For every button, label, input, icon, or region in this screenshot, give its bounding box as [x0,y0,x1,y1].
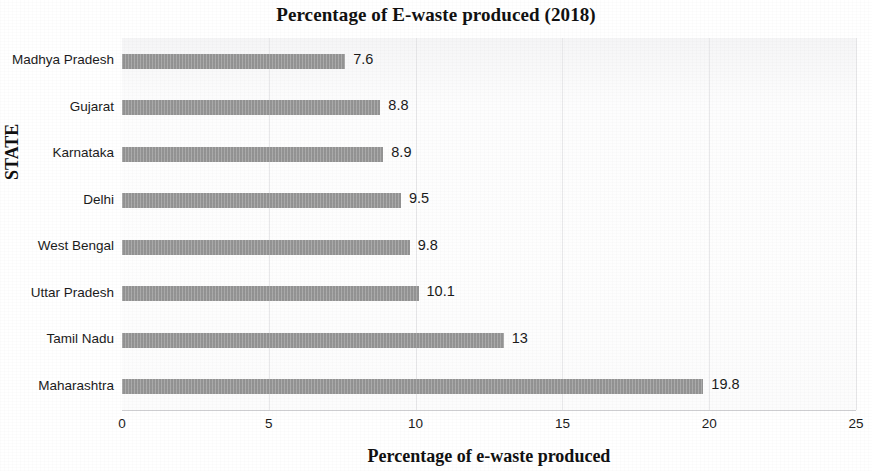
category-label: Gujarat [0,99,114,114]
bar-value-label: 8.8 [388,97,408,113]
x-tick-label: 15 [555,416,570,431]
chart-figure: Percentage of E-waste produced (2018) 7.… [0,0,872,471]
category-label: West Bengal [0,238,114,253]
bar-row[interactable]: 8.9 [122,147,856,162]
bar[interactable] [122,240,410,255]
bar-value-label: 8.9 [391,144,411,160]
category-label: Delhi [0,192,114,207]
bar-value-label: 13 [512,330,528,346]
plot-background-wash [122,38,856,410]
bar-row[interactable]: 10.1 [122,286,856,301]
bar-value-label: 7.6 [353,51,373,67]
bar[interactable] [122,147,383,162]
gridline [856,38,857,410]
category-label: Madhya Pradesh [0,52,114,67]
x-axis-title: Percentage of e-waste produced [122,446,856,467]
gridline [562,38,563,410]
bar[interactable] [122,379,703,394]
bar[interactable] [122,193,401,208]
bar-row[interactable]: 7.6 [122,54,856,69]
bar-value-label: 9.8 [418,237,438,253]
bar-row[interactable]: 13 [122,333,856,348]
bar-value-label: 9.5 [409,190,429,206]
x-tick-label: 10 [408,416,423,431]
x-axis-line [122,410,856,411]
gridline [269,38,270,410]
gridline [416,38,417,410]
chart-title: Percentage of E-waste produced (2018) [0,4,872,26]
bar-row[interactable]: 19.8 [122,379,856,394]
y-axis-title: STATE [2,124,23,180]
bar-value-label: 19.8 [711,376,739,392]
bar[interactable] [122,54,345,69]
bar-row[interactable]: 8.8 [122,100,856,115]
bar-row[interactable]: 9.5 [122,193,856,208]
x-tick-label: 25 [848,416,863,431]
x-tick-label: 5 [265,416,273,431]
bar-row[interactable]: 9.8 [122,240,856,255]
bar[interactable] [122,333,504,348]
x-tick-label: 0 [118,416,126,431]
category-label: Maharashtra [0,378,114,393]
bar[interactable] [122,100,380,115]
bar[interactable] [122,286,419,301]
category-label: Uttar Pradesh [0,285,114,300]
gridline [709,38,710,410]
category-label: Tamil Nadu [0,331,114,346]
bar-value-label: 10.1 [427,283,455,299]
plot-area: 7.68.88.99.59.810.11319.8 [122,38,856,410]
x-tick-label: 20 [702,416,717,431]
